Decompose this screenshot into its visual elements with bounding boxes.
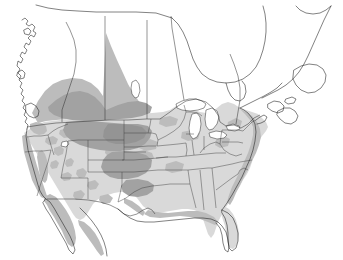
arctic-north-coast xyxy=(36,5,172,18)
manitoba-ontario-border xyxy=(171,16,184,100)
st-lawrence-river xyxy=(240,83,282,108)
newfoundland-coast xyxy=(293,64,326,93)
haida-gwaii xyxy=(17,70,25,79)
north-america-map xyxy=(0,0,343,260)
hudson-bay-coast xyxy=(172,6,266,83)
hudson-strait-coast xyxy=(296,6,331,14)
nova-scotia-coast xyxy=(277,108,298,124)
shade-mexico-west-coast xyxy=(78,220,104,256)
labrador-coast xyxy=(262,6,331,98)
james-bay-coast xyxy=(226,81,246,101)
map-figure xyxy=(0,0,343,260)
alaska-islands xyxy=(24,28,31,35)
new-brunswick-coast xyxy=(268,101,284,113)
pei-coast xyxy=(285,97,296,104)
